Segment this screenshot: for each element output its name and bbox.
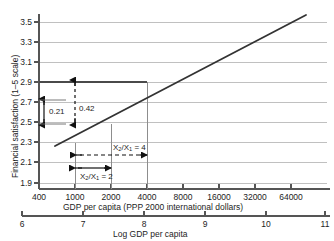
log-tick-label-8: 8 [124, 219, 164, 229]
log-tick-label-9: 9 [185, 219, 225, 229]
y-tick-label-2-7: 2.7 [8, 97, 32, 107]
y-tick-label-2-9: 2.9 [8, 77, 32, 87]
x-axis-title-gdp: GDP per capita (PPP 2000 international d… [63, 202, 243, 212]
y-tick-label-2-3: 2.3 [8, 137, 32, 147]
x-axis-title-log: Log GDP per capita [113, 229, 188, 239]
x-tick-label-1000: 1000 [55, 192, 95, 202]
annotation-label-0-21: 0.21 [49, 107, 65, 116]
x-tick-label-64000: 64000 [271, 192, 311, 202]
x-axis-gdp [39, 184, 330, 189]
y-tick-label-3-3: 3.3 [8, 37, 32, 47]
y-tick-label-2-5: 2.5 [8, 117, 32, 127]
x-tick-label-4000: 4000 [127, 192, 167, 202]
log-tick-label-7: 7 [63, 219, 103, 229]
y-tick-label-3-1: 3.1 [8, 57, 32, 67]
y-axis [34, 14, 39, 189]
y-tick-label-3-5: 3.5 [8, 17, 32, 27]
x-tick-label-400: 400 [19, 192, 59, 202]
x-tick-label-16000: 16000 [199, 192, 239, 202]
regression-line [55, 15, 306, 146]
financial-satisfaction-chart: Financial satisfaction (1–5 scale) 3.5 3… [0, 0, 334, 241]
annotation-label-ratio-4: X2/X1 = 4 [113, 143, 146, 152]
y-tick-label-2-1: 2.1 [8, 157, 32, 167]
x-tick-label-2000: 2000 [91, 192, 131, 202]
y-tick-label-1-9: 1.9 [8, 178, 32, 188]
log-tick-label-11: 11 [305, 219, 334, 229]
log-tick-label-10: 10 [246, 219, 286, 229]
annotation-label-0-42: 0.42 [79, 104, 95, 113]
x-tick-label-8000: 8000 [163, 192, 203, 202]
x-tick-label-32000: 32000 [235, 192, 275, 202]
annotation-label-ratio-2: X2/X1 = 2 [80, 172, 113, 181]
gridlines [39, 22, 327, 183]
log-tick-label-6: 6 [2, 219, 42, 229]
